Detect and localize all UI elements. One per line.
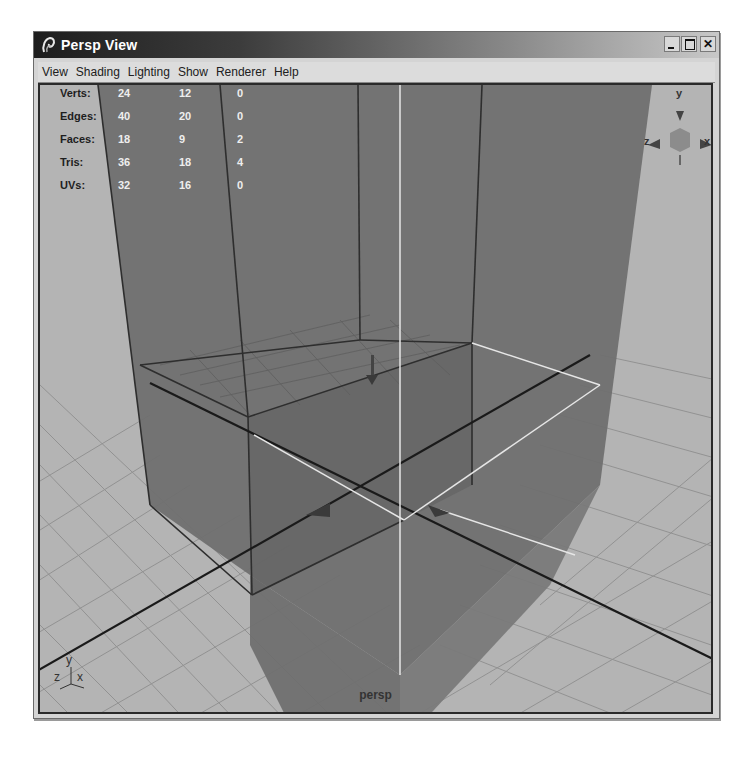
- view-cube-z-label: z: [644, 135, 650, 147]
- menu-help[interactable]: Help: [270, 65, 303, 79]
- close-button[interactable]: ✕: [700, 36, 716, 52]
- menu-show[interactable]: Show: [174, 65, 212, 79]
- window-title: Persp View: [61, 37, 137, 53]
- view-cube[interactable]: [648, 111, 711, 165]
- minimize-icon: [668, 47, 674, 49]
- maximize-icon: [685, 39, 695, 50]
- view-cube-y-label: y: [676, 87, 682, 99]
- minimize-button[interactable]: [664, 36, 680, 52]
- view-cube-x-label: x: [704, 135, 710, 147]
- close-icon: ✕: [703, 37, 713, 51]
- menu-shading[interactable]: Shading: [72, 65, 124, 79]
- title-bar[interactable]: Persp View ✕: [34, 32, 719, 58]
- persp-view-window: Persp View ✕ View Shading Lighting Show …: [33, 31, 720, 719]
- menu-view[interactable]: View: [38, 65, 72, 79]
- scene-render: [40, 85, 711, 712]
- menu-bar: View Shading Lighting Show Renderer Help: [38, 62, 715, 83]
- maya-app-icon: [41, 36, 57, 54]
- camera-name-label: persp: [40, 688, 711, 702]
- maximize-button[interactable]: [681, 36, 697, 52]
- menu-lighting[interactable]: Lighting: [124, 65, 174, 79]
- menu-renderer[interactable]: Renderer: [212, 65, 270, 79]
- 3d-viewport[interactable]: Verts: 24 12 0 Edges: 40 20 0 Faces: 18 …: [38, 83, 713, 714]
